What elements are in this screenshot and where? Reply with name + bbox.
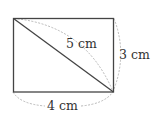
width-dimension-arc-left — [13, 92, 45, 106]
height-label: 3 cm — [119, 47, 150, 62]
rectangle-diagram: 5 cm 3 cm 4 cm — [0, 0, 160, 117]
width-label: 4 cm — [47, 98, 78, 113]
diagonal-line — [14, 19, 114, 93]
width-dimension-arc-right — [81, 92, 113, 106]
diagonal-label: 5 cm — [66, 36, 97, 51]
